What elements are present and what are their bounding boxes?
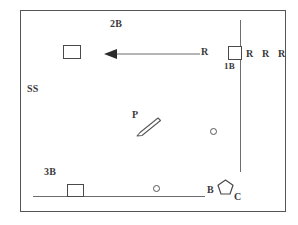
marker-ball-near-baseline — [153, 185, 160, 192]
pentagon-home-plate — [217, 179, 234, 195]
label-third-base: 3B — [44, 167, 56, 177]
diagonal-bat-shape — [135, 116, 161, 138]
base-second — [63, 45, 81, 59]
label-catcher: C — [234, 192, 242, 202]
marker-ball-infield-right — [210, 128, 217, 135]
field-border — [20, 10, 286, 212]
base-first — [228, 46, 242, 60]
label-runner-on-path: R — [201, 47, 209, 57]
leftward-motion-arrow — [103, 47, 201, 61]
diagram-canvas: 2B R 1B R R R SS P 3B B C — [0, 0, 298, 225]
label-runner-right-1: R — [246, 49, 254, 59]
label-shortstop: SS — [27, 84, 39, 94]
label-first-base: 1B — [224, 62, 235, 71]
label-runner-right-2: R — [262, 49, 270, 59]
horizontal-baseline — [33, 196, 205, 197]
base-third — [67, 184, 84, 197]
label-runner-right-3: R — [278, 49, 286, 59]
label-batter: B — [207, 185, 214, 195]
vertical-foul-line — [240, 20, 241, 172]
label-second-base: 2B — [110, 19, 122, 29]
